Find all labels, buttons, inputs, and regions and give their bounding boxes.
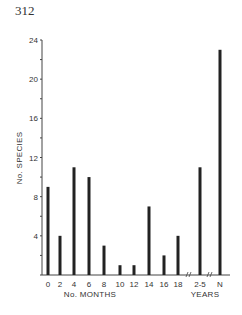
x-tick-label: 18	[174, 280, 183, 289]
bar	[103, 246, 106, 275]
x-axis-title-months: No. MONTHS	[64, 290, 116, 299]
bar	[47, 187, 50, 275]
bar	[73, 167, 76, 275]
bar	[177, 236, 180, 275]
x-tick-label: 4	[72, 280, 77, 289]
y-tick-label: 24	[29, 36, 38, 45]
x-tick-label: 6	[87, 280, 92, 289]
x-tick-label: 0	[46, 280, 51, 289]
bar	[163, 255, 166, 275]
bar	[59, 236, 62, 275]
x-tick-label: 2-5	[194, 280, 206, 289]
y-tick-label: 20	[29, 75, 38, 84]
x-tick-label: 2	[58, 280, 63, 289]
y-tick-label: 8	[34, 193, 39, 202]
x-axis-title-years: YEARS	[191, 290, 220, 299]
bar	[219, 50, 222, 275]
x-tick-label: 8	[102, 280, 107, 289]
bar	[148, 206, 151, 275]
species-bar-chart: 4812162024No. SPECIES0246810121416182-5N…	[0, 0, 242, 315]
x-tick-label: 14	[145, 280, 154, 289]
bar	[133, 265, 136, 275]
x-tick-label: 10	[116, 280, 125, 289]
x-tick-label: N	[217, 280, 223, 289]
y-axis-title: No. SPECIES	[15, 132, 24, 185]
bar	[119, 265, 122, 275]
y-tick-label: 12	[29, 154, 38, 163]
y-tick-label: 4	[34, 232, 39, 241]
y-tick-label: 16	[29, 114, 38, 123]
x-tick-label: 12	[130, 280, 139, 289]
x-tick-label: 16	[160, 280, 169, 289]
bar	[88, 177, 91, 275]
bar	[199, 167, 202, 275]
